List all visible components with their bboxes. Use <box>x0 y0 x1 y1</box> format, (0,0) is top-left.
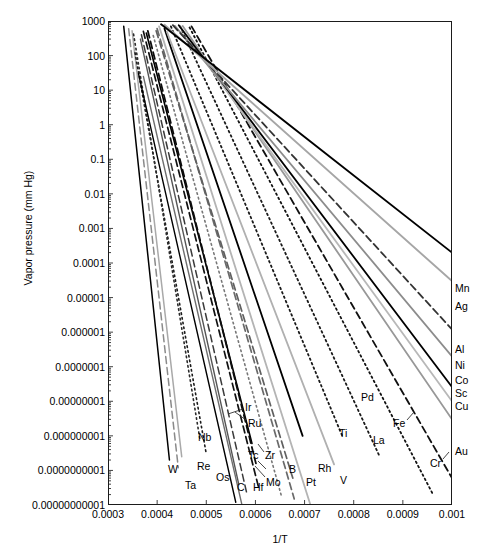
y-tick-label: 100 <box>87 50 105 62</box>
y-tick-label: 1 <box>99 119 105 131</box>
series-label-Al: Al <box>455 343 464 355</box>
series-label-V: V <box>340 474 347 486</box>
series-label-Fe: Fe <box>393 417 405 429</box>
series-label-Cr: Cr <box>430 457 441 469</box>
plot-frame <box>108 21 452 505</box>
series-label-Ta: Ta <box>185 479 196 491</box>
series-label-Re: Re <box>197 460 210 472</box>
series-label-Au: Au <box>455 445 468 457</box>
y-tick-label: 0.00001 <box>67 292 105 304</box>
y-tick-label: 0.0000001 <box>55 361 105 373</box>
y-tick-label: 0.00000001 <box>50 395 105 407</box>
x-axis-title: 1/T <box>108 533 452 545</box>
x-tick-label: 0.0009 <box>387 508 419 520</box>
x-tick-label: 0.001 <box>439 508 465 520</box>
series-label-Cu: Cu <box>455 400 468 412</box>
series-label-Rh: Rh <box>318 462 331 474</box>
series-label-Hf: Hf <box>253 481 264 493</box>
series-label-W: W <box>168 463 178 475</box>
y-tick-label: 0.0001 <box>73 257 105 269</box>
series-label-C: C <box>237 481 245 493</box>
series-label-Mn: Mn <box>455 282 470 294</box>
y-tick-label: 1000 <box>82 15 105 27</box>
x-tick-label: 0.0005 <box>190 508 222 520</box>
y-tick-label: 0.0000000001 <box>38 464 105 476</box>
series-label-B: B <box>289 463 296 475</box>
y-tick-label: 0.000001 <box>61 326 105 338</box>
series-label-Tc: Tc <box>248 449 259 461</box>
x-axis-tick-labels: 0.00030.00040.00050.00060.00070.00080.00… <box>108 508 452 528</box>
y-tick-label: 0.000000001 <box>44 430 105 442</box>
series-label-Sc: Sc <box>455 387 467 399</box>
y-tick-label: 0.001 <box>79 222 105 234</box>
y-tick-label: 0.1 <box>90 153 105 165</box>
vapor-pressure-chart: Vapor pressure (mm Hg) 1/T 10001001010.1… <box>0 0 487 556</box>
series-label-Pd: Pd <box>361 391 374 403</box>
series-label-Ag: Ag <box>455 300 468 312</box>
y-axis-tick-labels: 10001001010.10.010.0010.00010.000010.000… <box>0 21 105 505</box>
x-tick-label: 0.0003 <box>92 508 124 520</box>
series-label-Co: Co <box>455 374 468 386</box>
series-label-Ir: Ir <box>245 401 251 413</box>
series-label-Mo: Mo <box>266 476 281 488</box>
series-label-Zr: Zr <box>265 449 275 461</box>
series-label-Pt: Pt <box>306 476 316 488</box>
y-tick-label: 10 <box>93 84 105 96</box>
x-tick-label: 0.0008 <box>338 508 370 520</box>
series-label-Ru: Ru <box>248 417 261 429</box>
x-tick-label: 0.0006 <box>239 508 271 520</box>
series-label-Os: Os <box>216 471 229 483</box>
x-tick-label: 0.0004 <box>141 508 173 520</box>
x-tick-label: 0.0007 <box>289 508 321 520</box>
plot-area <box>108 21 452 505</box>
y-tick-label: 0.01 <box>85 188 105 200</box>
series-label-La: La <box>373 434 385 446</box>
series-label-Ti: Ti <box>339 427 347 439</box>
series-label-Nb: Nb <box>198 431 211 443</box>
series-label-Ni: Ni <box>455 359 465 371</box>
